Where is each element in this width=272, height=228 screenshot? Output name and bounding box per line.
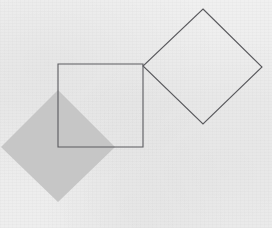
- shape-layer: [0, 0, 272, 228]
- geometry-figure-svg: [0, 0, 272, 228]
- outlined-diamond: [143, 9, 262, 124]
- figure-canvas: [0, 0, 272, 228]
